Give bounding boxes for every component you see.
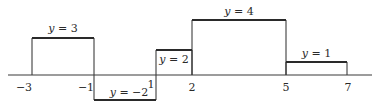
x-tick-label: 5 (283, 81, 290, 94)
step-segment (32, 38, 94, 75)
x-tick-label: 2 (189, 81, 196, 94)
step-segment (286, 62, 347, 75)
step-segment (192, 20, 286, 75)
x-tick-label: −3 (16, 81, 32, 94)
segment-label: y = 2 (158, 53, 188, 66)
x-tick-label: −1 (78, 81, 94, 94)
segment-label: y = −2 (109, 86, 149, 99)
x-tick-labels: −3−11257 (16, 78, 352, 94)
segment-label: y = 3 (47, 22, 77, 35)
segment-label: y = 1 (301, 47, 331, 60)
x-tick-label: 7 (345, 81, 352, 94)
step-function-chart: −3−11257 y = 3y = −2y = 2y = 4y = 1 (0, 0, 381, 106)
x-tick-label: 1 (148, 78, 155, 91)
segment-label: y = 4 (223, 5, 253, 18)
